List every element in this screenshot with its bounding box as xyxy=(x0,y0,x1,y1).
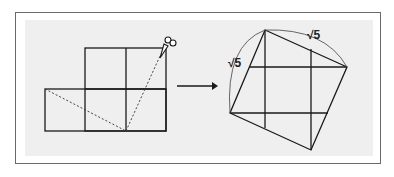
cut-lines xyxy=(45,56,160,131)
left-figure xyxy=(45,48,166,131)
right-figure xyxy=(230,30,347,150)
right-arrow-icon xyxy=(177,82,218,90)
side-label-top: √5 xyxy=(307,28,320,42)
dissection-diagram xyxy=(0,0,394,177)
side-label-left: √5 xyxy=(228,56,241,70)
